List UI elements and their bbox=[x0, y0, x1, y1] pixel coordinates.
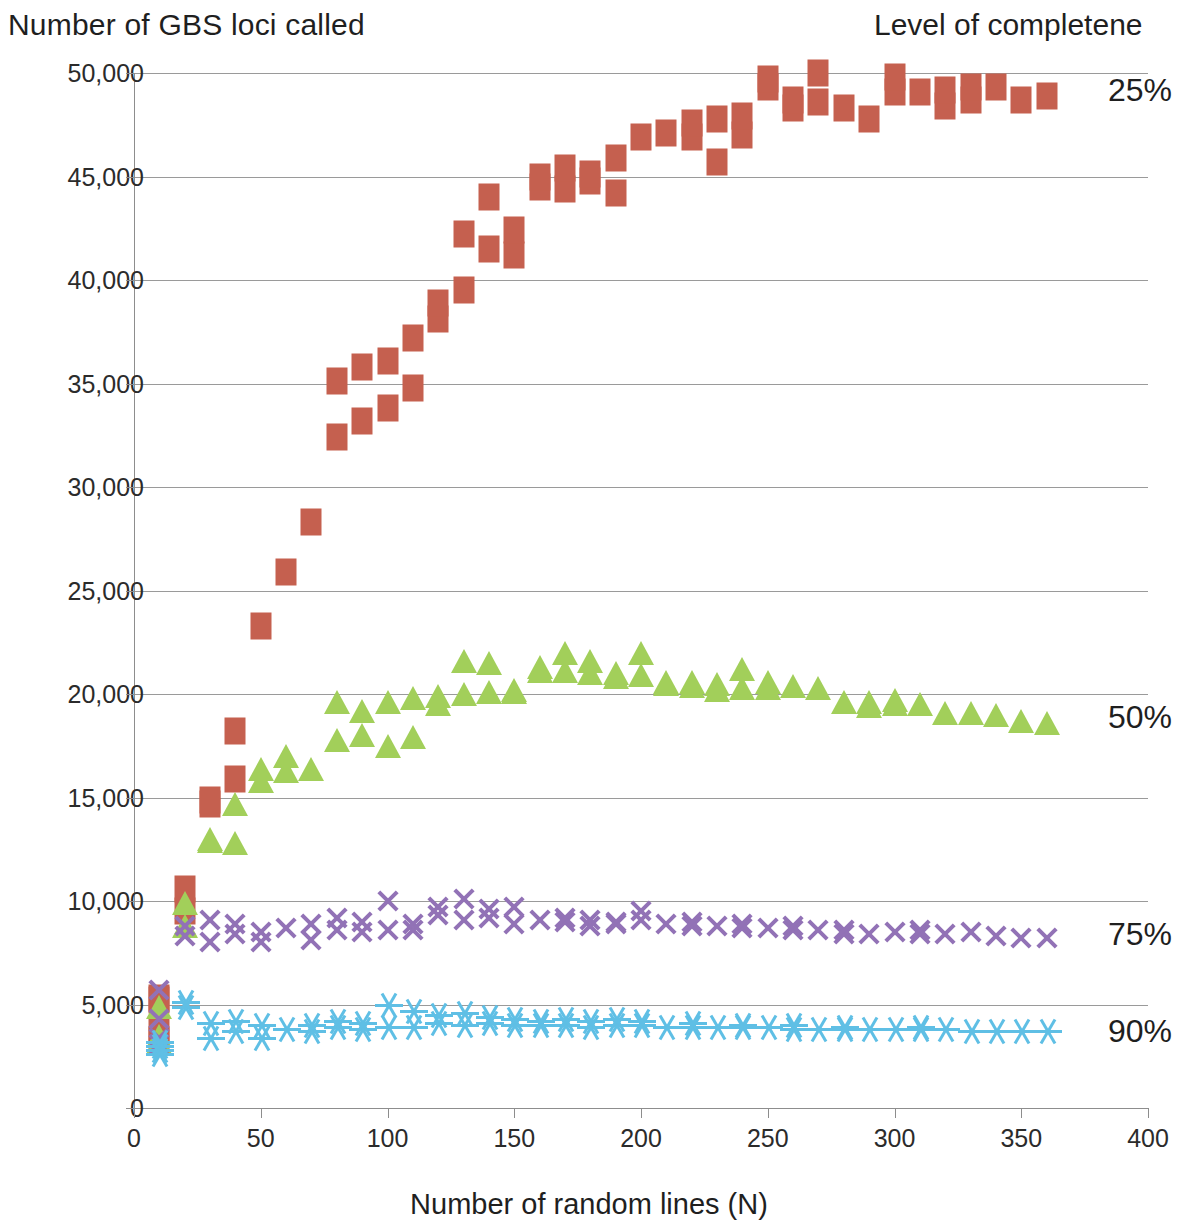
gridline bbox=[134, 280, 1148, 281]
x-tick-mark bbox=[134, 1108, 135, 1118]
data-point-x bbox=[349, 909, 375, 935]
data-point-square bbox=[377, 395, 398, 422]
data-point-triangle bbox=[1034, 711, 1060, 735]
data-point-triangle bbox=[856, 694, 882, 718]
data-point-x bbox=[375, 917, 401, 943]
data-point-star bbox=[552, 1012, 578, 1038]
data-point-star bbox=[577, 1014, 603, 1040]
x-tick-label: 400 bbox=[1108, 1124, 1178, 1153]
data-point-triangle bbox=[805, 676, 831, 700]
data-point-triangle bbox=[704, 672, 730, 696]
data-point-triangle bbox=[476, 680, 502, 704]
data-point-star bbox=[476, 1004, 502, 1030]
data-point-star bbox=[704, 1014, 730, 1040]
data-point-triangle bbox=[222, 831, 248, 855]
data-point-star bbox=[527, 1008, 553, 1034]
data-point-square bbox=[960, 74, 981, 101]
data-point-star bbox=[146, 1041, 172, 1067]
data-point-triangle bbox=[932, 701, 958, 725]
data-point-star bbox=[451, 1012, 477, 1038]
data-point-star bbox=[425, 1010, 451, 1036]
data-point-square bbox=[707, 149, 728, 176]
data-point-square bbox=[833, 95, 854, 122]
data-point-triangle bbox=[476, 651, 502, 675]
y-tick-mark bbox=[126, 73, 135, 74]
data-point-triangle bbox=[349, 723, 375, 747]
data-point-square bbox=[428, 306, 449, 333]
x-axis-title: Number of random lines (N) bbox=[0, 1188, 1178, 1221]
data-point-square bbox=[935, 93, 956, 120]
data-point-star bbox=[729, 1014, 755, 1040]
data-point-square bbox=[580, 161, 601, 188]
data-point-square bbox=[301, 509, 322, 536]
data-point-x bbox=[1034, 925, 1060, 951]
data-point-star bbox=[527, 1012, 553, 1038]
data-point-x bbox=[451, 907, 477, 933]
data-point-star bbox=[222, 1018, 248, 1044]
data-point-star bbox=[831, 1016, 857, 1042]
data-point-x bbox=[983, 923, 1009, 949]
data-point-star bbox=[349, 1010, 375, 1036]
data-point-triangle bbox=[375, 734, 401, 758]
gridline bbox=[134, 1005, 1148, 1006]
data-point-square bbox=[554, 155, 575, 182]
data-point-triangle bbox=[146, 995, 172, 1019]
data-point-x bbox=[679, 913, 705, 939]
data-point-star bbox=[222, 1008, 248, 1034]
y-tick-mark bbox=[126, 798, 135, 799]
x-tick-mark bbox=[388, 1108, 389, 1118]
y-tick-mark bbox=[126, 694, 135, 695]
data-point-x bbox=[780, 917, 806, 943]
data-point-triangle bbox=[324, 728, 350, 752]
data-point-star bbox=[780, 1012, 806, 1038]
data-point-square bbox=[504, 242, 525, 269]
data-point-star bbox=[679, 1014, 705, 1040]
data-point-star bbox=[679, 1010, 705, 1036]
data-point-x bbox=[628, 907, 654, 933]
data-point-triangle bbox=[527, 659, 553, 683]
data-point-x bbox=[146, 1025, 172, 1051]
data-point-triangle bbox=[603, 665, 629, 689]
data-point-star bbox=[146, 1033, 172, 1059]
x-tick-mark bbox=[895, 1108, 896, 1118]
data-point-triangle bbox=[755, 676, 781, 700]
x-tick-mark bbox=[514, 1108, 515, 1118]
data-point-square bbox=[453, 221, 474, 248]
data-point-x bbox=[298, 927, 324, 953]
x-tick-mark bbox=[641, 1108, 642, 1118]
gridline bbox=[134, 487, 1148, 488]
x-tick-label: 250 bbox=[728, 1124, 808, 1153]
data-point-x bbox=[197, 907, 223, 933]
data-point-x bbox=[603, 909, 629, 935]
data-point-triangle bbox=[248, 757, 274, 781]
data-point-square bbox=[428, 289, 449, 316]
data-point-square bbox=[605, 144, 626, 171]
data-point-star bbox=[197, 1010, 223, 1036]
data-point-square bbox=[326, 368, 347, 395]
data-point-star bbox=[146, 1037, 172, 1063]
data-point-triangle bbox=[172, 891, 198, 915]
data-point-x bbox=[222, 911, 248, 937]
data-point-square bbox=[757, 66, 778, 93]
data-point-x bbox=[552, 909, 578, 935]
data-point-x bbox=[805, 917, 831, 943]
data-point-triangle bbox=[603, 661, 629, 685]
data-point-x bbox=[273, 915, 299, 941]
data-point-triangle bbox=[1008, 709, 1034, 733]
data-point-x bbox=[907, 917, 933, 943]
data-point-x bbox=[653, 911, 679, 937]
data-point-x bbox=[349, 919, 375, 945]
data-point-x bbox=[324, 917, 350, 943]
data-point-star bbox=[958, 1018, 984, 1044]
gridline bbox=[134, 73, 1148, 74]
data-point-star bbox=[172, 994, 198, 1020]
data-point-star bbox=[248, 1025, 274, 1051]
data-point-x bbox=[679, 909, 705, 935]
data-point-square bbox=[631, 124, 652, 151]
data-point-triangle bbox=[197, 829, 223, 853]
data-point-star bbox=[298, 1012, 324, 1038]
y-tick-mark bbox=[126, 901, 135, 902]
data-point-triangle bbox=[552, 659, 578, 683]
gridline bbox=[134, 798, 1148, 799]
x-tick-label: 0 bbox=[94, 1124, 174, 1153]
